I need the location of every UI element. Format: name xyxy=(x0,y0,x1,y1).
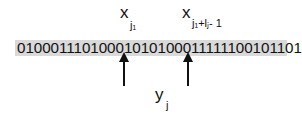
arrow-up-icon xyxy=(118,52,130,86)
label-y: y xyxy=(155,86,164,103)
label-y-subscript: j xyxy=(166,100,168,111)
label-x-end: x xyxy=(182,4,191,21)
label-x-start-subscript: j₁ xyxy=(130,20,136,31)
label-x-start: x xyxy=(120,4,129,21)
bit-string: 01000111010001010100011111100101101 xyxy=(17,40,302,56)
arrow-up-icon xyxy=(182,52,194,86)
label-x-end-subscript: j₁+lⱼ- 1 xyxy=(192,18,222,29)
